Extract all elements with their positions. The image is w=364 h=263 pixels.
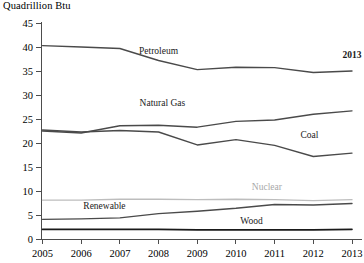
y-tick-label: 15 [23, 162, 34, 173]
y-tick-label: 5 [28, 210, 33, 221]
x-tick-label: 2009 [187, 248, 208, 259]
y-tick-label: 10 [23, 186, 34, 197]
x-tick-label: 2010 [225, 248, 246, 259]
series-label-wood: Wood [240, 216, 263, 226]
y-tick-label: 0 [28, 234, 33, 245]
x-tick-label: 2013 [342, 248, 363, 259]
x-tick-label: 2006 [71, 248, 92, 259]
x-tick-label: 2012 [303, 248, 324, 259]
energy-consumption-line-chart: Quadrillion Btu 051015202530354045 20052… [0, 0, 364, 263]
y-tick-label: 30 [23, 90, 34, 101]
chart-plot-area: 051015202530354045 200520062007200820092… [0, 0, 364, 263]
y-tick-label: 45 [23, 18, 34, 29]
series-label-natural-gas: Natural Gas [140, 98, 186, 108]
x-tick-label: 2011 [264, 248, 285, 259]
series-label-renewable: Renewable [83, 201, 125, 211]
y-tick-label: 25 [23, 114, 34, 125]
series-label-petroleum: Petroleum [139, 46, 179, 56]
x-tick-label: 2008 [148, 248, 169, 259]
x-axis-tick-group: 200520062007200820092010201120122013 [32, 240, 363, 259]
y-axis-tick-group: 051015202530354045 [23, 18, 42, 245]
annotation-2013: 2013 [343, 50, 362, 60]
series-label-coal: Coal [300, 130, 318, 140]
y-tick-label: 35 [23, 66, 34, 77]
series-line-petroleum [43, 46, 353, 73]
series-label-nuclear: Nuclear [252, 182, 283, 192]
x-tick-label: 2007 [109, 248, 130, 259]
x-tick-label: 2005 [32, 248, 53, 259]
y-tick-label: 20 [23, 138, 34, 149]
y-tick-label: 40 [23, 42, 34, 53]
annotation-group: 2013 [343, 50, 362, 60]
